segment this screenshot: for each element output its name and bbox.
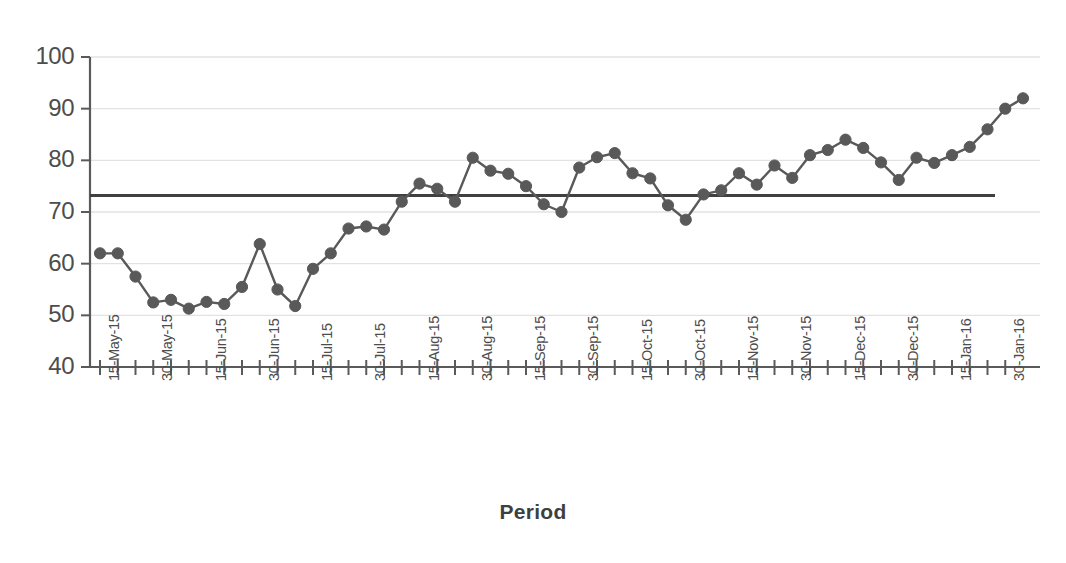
- data-point-marker[interactable]: [343, 223, 354, 234]
- y-axis-tick-label: 70: [22, 197, 74, 225]
- data-point-marker[interactable]: [751, 179, 762, 190]
- x-axis-tick-label: 15-May-15: [106, 314, 122, 381]
- data-point-marker[interactable]: [893, 174, 904, 185]
- y-axis-tick-label: 80: [22, 145, 74, 173]
- data-point-marker[interactable]: [272, 284, 283, 295]
- data-point-marker[interactable]: [591, 152, 602, 163]
- data-point-marker[interactable]: [432, 183, 443, 194]
- x-axis-tick-label: 15-Jan-16: [958, 318, 974, 381]
- x-axis-tick-label: 30-Jul-15: [372, 323, 388, 381]
- x-axis-tick-label: 15-Nov-15: [745, 316, 761, 381]
- y-axis-tick-label: 40: [22, 352, 74, 380]
- data-point-marker[interactable]: [911, 152, 922, 163]
- data-point-marker[interactable]: [716, 185, 727, 196]
- data-point-marker[interactable]: [165, 294, 176, 305]
- data-point-marker[interactable]: [733, 168, 744, 179]
- data-point-marker[interactable]: [787, 172, 798, 183]
- data-point-marker[interactable]: [148, 297, 159, 308]
- x-axis-tick-label: 15-Jun-15: [213, 318, 229, 381]
- data-point-marker[interactable]: [467, 152, 478, 163]
- data-point-marker[interactable]: [201, 296, 212, 307]
- x-axis-tick-label: 30-Aug-15: [479, 316, 495, 381]
- x-axis-tick-label: 15-Oct-15: [639, 319, 655, 381]
- y-axis-tick-label: 60: [22, 249, 74, 277]
- data-point-marker[interactable]: [875, 157, 886, 168]
- x-axis-tick-label: 30-Sep-15: [585, 316, 601, 381]
- data-point-marker[interactable]: [414, 178, 425, 189]
- data-point-marker[interactable]: [219, 298, 230, 309]
- data-point-marker[interactable]: [822, 144, 833, 155]
- data-point-marker[interactable]: [1017, 93, 1028, 104]
- data-point-marker[interactable]: [609, 148, 620, 159]
- data-point-marker[interactable]: [112, 248, 123, 259]
- data-point-marker[interactable]: [858, 142, 869, 153]
- data-point-marker[interactable]: [804, 150, 815, 161]
- data-point-marker[interactable]: [236, 281, 247, 292]
- data-point-marker[interactable]: [946, 150, 957, 161]
- data-point-marker[interactable]: [929, 157, 940, 168]
- data-point-marker[interactable]: [698, 189, 709, 200]
- data-point-marker[interactable]: [130, 271, 141, 282]
- x-axis-tick-label: 15-Jul-15: [319, 323, 335, 381]
- y-axis-tick-label: 100: [22, 42, 74, 70]
- data-series-line: [100, 98, 1023, 308]
- x-axis-tick-label: 30-Jan-16: [1011, 318, 1027, 381]
- x-axis-tick-label: 30-May-15: [159, 314, 175, 381]
- data-point-marker[interactable]: [662, 200, 673, 211]
- x-axis-tick-label: 30-Jun-15: [266, 318, 282, 381]
- data-point-marker[interactable]: [1000, 103, 1011, 114]
- data-point-marker[interactable]: [964, 141, 975, 152]
- data-point-marker[interactable]: [645, 173, 656, 184]
- x-axis-tick-label: 15-Aug-15: [426, 316, 442, 381]
- line-chart: 405060708090100 15-May-1530-May-1515-Jun…: [0, 0, 1066, 563]
- data-point-marker[interactable]: [485, 165, 496, 176]
- data-point-marker[interactable]: [449, 196, 460, 207]
- data-point-marker[interactable]: [94, 248, 105, 259]
- x-axis-tick-label: 15-Dec-15: [852, 316, 868, 381]
- data-point-marker[interactable]: [290, 300, 301, 311]
- data-point-marker[interactable]: [325, 248, 336, 259]
- data-point-marker[interactable]: [307, 263, 318, 274]
- data-point-marker[interactable]: [627, 168, 638, 179]
- y-axis-tick-label: 90: [22, 94, 74, 122]
- x-axis-tick-label: 15-Sep-15: [532, 316, 548, 381]
- data-point-marker[interactable]: [378, 224, 389, 235]
- data-point-marker[interactable]: [503, 168, 514, 179]
- data-point-marker[interactable]: [361, 221, 372, 232]
- x-axis-tick-label: 30-Dec-15: [905, 316, 921, 381]
- data-point-marker[interactable]: [538, 199, 549, 210]
- data-point-marker[interactable]: [680, 214, 691, 225]
- data-point-marker[interactable]: [574, 162, 585, 173]
- y-axis-tick-label: 50: [22, 300, 74, 328]
- data-point-marker[interactable]: [254, 238, 265, 249]
- x-axis-title: Period: [0, 500, 1066, 524]
- data-point-marker[interactable]: [982, 124, 993, 135]
- data-point-marker[interactable]: [769, 160, 780, 171]
- data-point-marker[interactable]: [840, 134, 851, 145]
- plot-area: [0, 0, 1066, 563]
- data-point-marker[interactable]: [556, 206, 567, 217]
- data-point-marker[interactable]: [183, 303, 194, 314]
- data-point-marker[interactable]: [520, 181, 531, 192]
- x-axis-tick-label: 30-Nov-15: [798, 316, 814, 381]
- data-point-marker[interactable]: [396, 196, 407, 207]
- x-axis-tick-label: 30-Oct-15: [692, 319, 708, 381]
